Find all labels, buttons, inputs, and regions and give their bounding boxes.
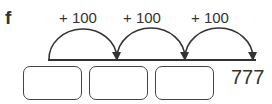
jump-arc-2 (117, 28, 185, 58)
end-value: 777 (231, 66, 264, 89)
jump-arc-3 (185, 28, 253, 58)
jump-arc-1 (49, 29, 117, 60)
answer-box-3[interactable] (155, 66, 214, 100)
answer-box-2[interactable] (89, 66, 148, 100)
answer-box-1[interactable] (23, 66, 82, 100)
